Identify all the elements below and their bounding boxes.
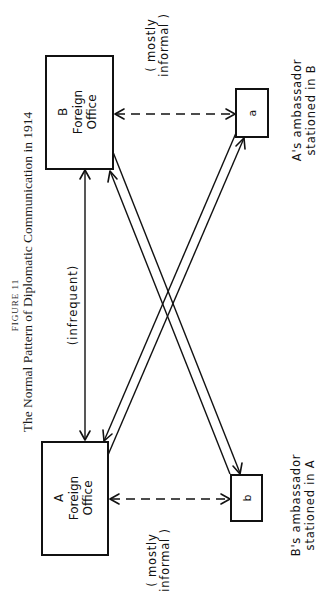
b-ambassador-letter: b	[241, 494, 254, 501]
b-ambassador-caption-1: B's ambassador	[289, 454, 303, 557]
a-office-to-a-ambassador-arrow	[108, 138, 245, 455]
a-office-line1: Foreign	[67, 476, 81, 520]
foreign-office-link-arrow	[80, 170, 90, 440]
a-ambassador-to-a-office-arrow	[103, 133, 236, 441]
a-ambassador-letter: a	[246, 110, 259, 117]
a-foreign-office-node: A Foreign Office	[42, 442, 108, 555]
a-office-b-ambassador-dashed-arrow	[110, 494, 230, 504]
b-office-letter: B	[56, 108, 70, 116]
mostly-informal-top-1: ( mostly	[144, 18, 158, 71]
mostly-informal-bottom-1: ( mostly	[145, 533, 159, 586]
a-office-line2: Office	[81, 480, 95, 515]
a-ambassador-caption-2: stationed in B	[304, 65, 318, 156]
b-office-a-ambassador-dashed-arrow	[115, 109, 235, 119]
a-ambassador-node: a	[236, 89, 268, 137]
b-office-line1: Foreign	[71, 90, 85, 134]
infrequent-label: (infrequent)	[66, 265, 80, 346]
figure-title: The Normal Pattern of Diplomatic Communi…	[20, 111, 35, 432]
b-office-to-b-ambassador-arrow	[113, 152, 242, 474]
figure-number: FIGURE 11	[10, 279, 20, 331]
b-office-line2: Office	[85, 94, 99, 129]
diagram-canvas: FIGURE 11 The Normal Pattern of Diplomat…	[0, 0, 323, 604]
b-ambassador-caption-2: stationed in A	[303, 460, 317, 551]
b-ambassador-to-b-office-arrow	[108, 171, 230, 474]
mostly-informal-bottom-2: informal )	[158, 528, 172, 592]
b-foreign-office-node: B Foreign Office	[46, 56, 113, 169]
a-ambassador-caption-1: A's ambassador	[290, 59, 304, 162]
mostly-informal-top-2: informal )	[157, 13, 171, 77]
b-ambassador-node: b	[231, 475, 262, 521]
a-office-letter: A	[52, 493, 66, 502]
